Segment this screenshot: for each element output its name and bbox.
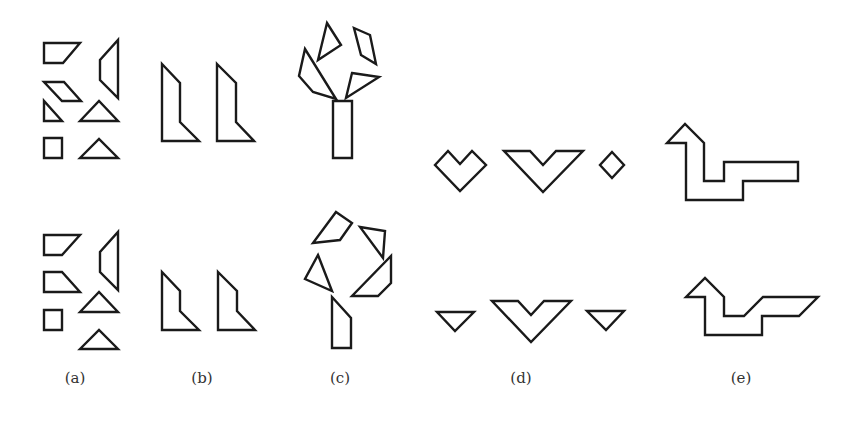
triangle-icon xyxy=(80,330,118,349)
chevron-shape-icon xyxy=(504,151,583,192)
boot-shape-icon xyxy=(162,272,199,330)
panel-e xyxy=(667,124,818,335)
panel-a xyxy=(44,40,118,349)
panel-label-a: (a) xyxy=(65,369,86,387)
stair-arrow-icon xyxy=(667,124,798,200)
parallelogram-branch-icon xyxy=(354,28,376,64)
panel-label-b: (b) xyxy=(191,369,212,387)
chevron-shape-icon xyxy=(492,301,571,342)
boot-shape-icon xyxy=(217,64,254,141)
trapezoid-branch-icon xyxy=(299,49,336,99)
right-trapezoid-icon xyxy=(100,40,118,98)
trapezoid-icon xyxy=(44,43,80,63)
trapezoid-icon xyxy=(44,272,80,292)
triangle-icon xyxy=(80,292,118,312)
figure-canvas xyxy=(0,0,853,421)
panel-label-d: (d) xyxy=(510,369,531,387)
triangle-icon xyxy=(80,139,118,158)
boot-shape-icon xyxy=(218,272,255,330)
heart-shape-icon xyxy=(435,151,486,191)
quad-branch-icon xyxy=(313,212,352,243)
triangle-branch-icon xyxy=(346,73,379,98)
panel-c xyxy=(299,23,391,348)
triangle-icon xyxy=(80,101,118,121)
panel-label-c: (c) xyxy=(330,369,350,387)
inverted-triangle-icon xyxy=(587,311,624,330)
square-icon xyxy=(44,310,62,330)
boot-shape-icon xyxy=(162,64,199,141)
panel-d xyxy=(435,151,624,342)
right-trapezoid-icon xyxy=(100,232,118,290)
trapezoid-branch-icon xyxy=(352,256,391,296)
square-icon xyxy=(44,138,62,158)
diamond-icon xyxy=(600,152,624,178)
stair-arrow-icon xyxy=(686,278,818,335)
inverted-triangle-icon xyxy=(437,312,474,331)
trunk-rectangle-icon xyxy=(333,101,352,158)
triangle-branch-icon xyxy=(318,23,341,60)
trapezoid-icon xyxy=(44,235,80,255)
panel-label-e: (e) xyxy=(731,369,752,387)
triangle-branch-icon xyxy=(305,255,332,291)
trunk-pentagon-icon xyxy=(332,297,351,348)
small-triangle-icon xyxy=(44,101,62,121)
parallelogram-icon xyxy=(44,82,81,101)
triangle-branch-icon xyxy=(360,227,385,258)
panel-b xyxy=(162,64,255,330)
